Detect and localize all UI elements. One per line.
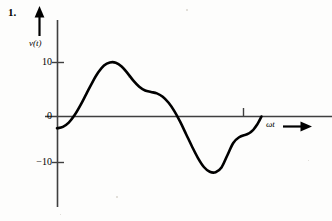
x-axis-label: ωt bbox=[266, 120, 275, 129]
problem-number: 1. bbox=[8, 7, 16, 18]
y-tick-label-neg-10: −10 bbox=[22, 157, 52, 167]
x-axis-arrow-icon bbox=[283, 121, 312, 131]
y-axis-arrow-icon bbox=[35, 6, 45, 36]
figure-container: 1. v(t) ωt 10 0 −10 bbox=[0, 0, 332, 221]
y-tick-label-10: 10 bbox=[28, 57, 52, 67]
waveform-curve bbox=[57, 62, 261, 172]
y-axis-label: v(t) bbox=[29, 39, 42, 48]
y-tick-label-0: 0 bbox=[28, 111, 52, 121]
